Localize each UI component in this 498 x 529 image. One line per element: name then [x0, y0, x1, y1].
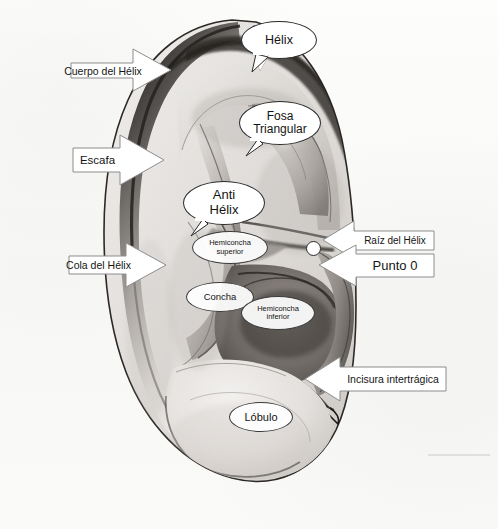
- arrow-escafa: Escafa: [72, 134, 168, 186]
- bubble-hemiconcha-superior-label: Hemiconcha superior: [209, 239, 251, 256]
- arrow-incisura-intertragica-label: Incisura intertrágica: [347, 373, 439, 385]
- arrow-cuerpo-del-helix: Cuerpo del Hélix: [70, 48, 176, 92]
- bubble-hemiconcha-inferior-label: Hemiconcha inferior: [257, 305, 299, 322]
- bubble-lobulo: Lóbulo: [229, 402, 293, 432]
- arrow-punto-0-label: Punto 0: [373, 258, 418, 273]
- punto-0-marker-icon: [306, 241, 321, 256]
- bubble-hemiconcha-inferior: Hemiconcha inferior: [241, 296, 315, 330]
- bubble-helix-label: Hélix: [265, 33, 293, 47]
- arrow-incisura-intertragica: Incisura intertrágica: [304, 355, 450, 401]
- arrow-punto-0: Punto 0: [318, 243, 440, 285]
- bubble-hemiconcha-superior: Hemiconcha superior: [192, 231, 268, 264]
- ear-anatomy-figure: Hélix Fosa Triangular Anti Hélix Hemicon…: [0, 0, 498, 529]
- arrow-cola-del-helix: Cola del Hélix: [68, 241, 168, 289]
- bubble-anti-helix-label: Anti Hélix: [210, 188, 239, 217]
- arrow-cuerpo-del-helix-label: Cuerpo del Hélix: [64, 65, 142, 77]
- bubble-concha-label: Concha: [204, 292, 237, 303]
- bubble-helix-tail-outline: [248, 52, 274, 74]
- bubble-fosa-tail: [244, 138, 268, 158]
- arrow-escafa-label: Escafa: [80, 154, 115, 166]
- bubble-fosa-triangular-label: Fosa Triangular: [253, 110, 307, 137]
- arrow-cola-del-helix-label: Cola del Hélix: [66, 259, 131, 271]
- bubble-lobulo-label: Lóbulo: [244, 411, 277, 423]
